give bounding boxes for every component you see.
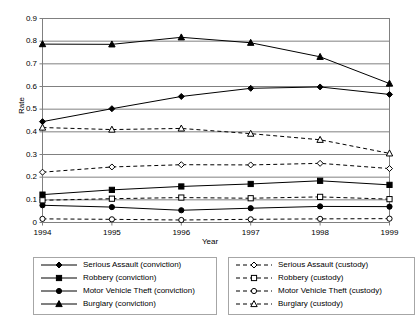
legend-swatch xyxy=(233,298,275,310)
x-tick-label: 1994 xyxy=(23,229,63,237)
legend-label: Robbery (custody) xyxy=(278,273,343,282)
legend-item: Serious Assault (conviction) xyxy=(34,258,216,271)
data-point xyxy=(248,217,253,222)
data-point xyxy=(387,197,392,202)
data-point xyxy=(248,181,253,186)
data-point xyxy=(318,178,323,183)
series-robbery-custody xyxy=(40,194,392,203)
data-point xyxy=(317,84,323,90)
data-point xyxy=(387,204,392,209)
legend-item: Burglary (conviction) xyxy=(34,297,216,310)
plot-canvas xyxy=(0,0,420,248)
y-tick-label: 0.9 xyxy=(8,15,37,23)
data-point xyxy=(109,106,115,112)
square-filled-marker xyxy=(56,275,61,280)
legend-conviction: Serious Assault (conviction)Robbery (con… xyxy=(33,257,217,315)
data-point xyxy=(40,192,45,197)
gridlines xyxy=(43,41,390,200)
y-tick-label: 0.4 xyxy=(8,128,37,136)
x-tick-label: 1998 xyxy=(300,229,340,237)
y-tick-label: 0 xyxy=(8,219,37,227)
x-tick-label: 1997 xyxy=(231,229,271,237)
series-line xyxy=(43,181,390,195)
y-tick-label: 0.3 xyxy=(8,151,37,159)
data-point xyxy=(179,195,184,200)
legend-label: Serious Assault (custody) xyxy=(278,260,368,269)
series-line xyxy=(43,205,390,210)
plot-frame xyxy=(43,19,390,223)
data-point xyxy=(40,169,46,175)
series-motor-vehicle-theft-custody xyxy=(40,216,392,223)
data-point xyxy=(179,184,184,189)
data-point xyxy=(248,206,253,211)
legend-label: Burglary (conviction) xyxy=(83,299,156,308)
line-chart: 0.90.80.70.60.50.40.30.20.10 19941995199… xyxy=(0,0,420,248)
x-tick-label: 1996 xyxy=(161,229,201,237)
data-point xyxy=(178,162,184,168)
x-tick-label: 1999 xyxy=(370,229,410,237)
data-point xyxy=(40,198,45,203)
y-tick-label: 0.7 xyxy=(8,60,37,68)
y-axis-title: Rate xyxy=(17,86,26,126)
x-axis-title: Year xyxy=(0,237,420,246)
legend-item: Motor Vehicle Theft (custody) xyxy=(229,284,414,297)
series-line xyxy=(43,87,390,122)
data-point xyxy=(318,204,323,209)
data-point xyxy=(387,91,393,97)
data-point xyxy=(387,182,392,187)
legend-swatch xyxy=(233,259,275,271)
legend-swatch xyxy=(38,259,80,271)
legend-label: Motor Vehicle Theft (conviction) xyxy=(83,286,195,295)
data-point xyxy=(387,166,393,172)
series-burglary-custody xyxy=(39,124,392,156)
legend-item: Robbery (custody) xyxy=(229,271,414,284)
circle-filled-marker xyxy=(56,288,61,293)
legend-item: Burglary (custody) xyxy=(229,297,414,310)
legend-swatch xyxy=(38,272,80,284)
diamond-filled-marker xyxy=(56,262,62,268)
legend-label: Motor Vehicle Theft (custody) xyxy=(278,286,382,295)
diamond-open-marker xyxy=(251,262,257,268)
legend-item: Motor Vehicle Theft (conviction) xyxy=(34,284,216,297)
circle-open-marker xyxy=(251,288,256,293)
data-point xyxy=(179,217,184,222)
legend-swatch xyxy=(233,272,275,284)
series-line xyxy=(43,163,390,172)
data-point xyxy=(318,194,323,199)
series-serious-assault-custody xyxy=(40,160,393,175)
x-tick-label: 1995 xyxy=(92,229,132,237)
data-point xyxy=(178,93,184,99)
y-tick-label: 0.8 xyxy=(8,37,37,45)
series-motor-vehicle-theft-conviction xyxy=(40,203,392,213)
chart-screenshot: 0.90.80.70.60.50.40.30.20.10 19941995199… xyxy=(0,0,420,318)
data-point xyxy=(178,34,184,40)
data-point xyxy=(40,203,45,208)
data-point xyxy=(248,196,253,201)
data-point xyxy=(40,216,45,221)
series-burglary-conviction xyxy=(39,34,392,86)
data-point xyxy=(109,196,114,201)
legend-label: Serious Assault (conviction) xyxy=(83,260,181,269)
data-point xyxy=(248,162,254,168)
legend-swatch xyxy=(233,285,275,297)
square-open-marker xyxy=(251,275,256,280)
series-line xyxy=(43,37,390,83)
legend-swatch xyxy=(38,298,80,310)
data-point xyxy=(387,216,392,221)
data-point xyxy=(179,208,184,213)
legend-label: Robbery (conviction) xyxy=(83,273,156,282)
legend-custody: Serious Assault (custody)Robbery (custod… xyxy=(228,257,415,315)
series-serious-assault-conviction xyxy=(40,84,393,125)
data-point xyxy=(109,217,114,222)
legend-item: Serious Assault (custody) xyxy=(229,258,414,271)
data-series-layer xyxy=(39,34,392,223)
series-line xyxy=(43,219,390,220)
legend-swatch xyxy=(38,285,80,297)
data-point xyxy=(317,160,323,166)
data-point xyxy=(318,216,323,221)
data-point xyxy=(109,187,114,192)
y-tick-label: 0.2 xyxy=(8,173,37,181)
legend-item: Robbery (conviction) xyxy=(34,271,216,284)
y-tick-label: 0.1 xyxy=(8,196,37,204)
data-point xyxy=(109,204,114,209)
